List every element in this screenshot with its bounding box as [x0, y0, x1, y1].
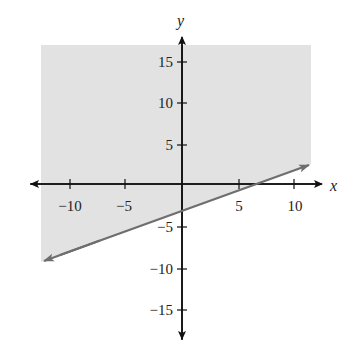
- x-tick-label: 5: [235, 198, 243, 214]
- inequality-graph: −10 −5 5 10 15 10 5 −5 −10 −15 x y: [0, 0, 357, 351]
- shaded-region: [41, 45, 311, 262]
- y-tick-label: −10: [150, 261, 173, 277]
- y-tick-label: −15: [150, 302, 173, 318]
- y-axis-label: y: [175, 12, 185, 30]
- y-tick-label: 5: [166, 137, 174, 153]
- y-tick-label: 15: [158, 54, 173, 70]
- y-tick-label: −5: [157, 219, 173, 235]
- x-tick-label: −10: [58, 198, 81, 214]
- x-axis-label: x: [329, 177, 337, 194]
- x-tick-label: −5: [116, 198, 132, 214]
- x-tick-label: 10: [288, 198, 303, 214]
- y-tick-label: 10: [158, 95, 173, 111]
